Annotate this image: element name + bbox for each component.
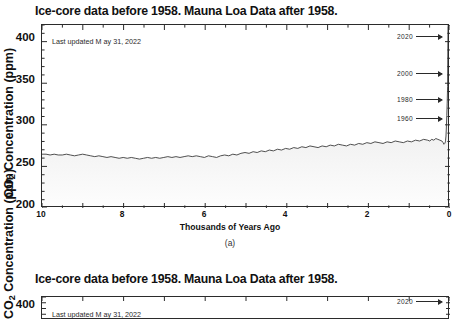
y-tick-label-300: 300 <box>2 114 35 126</box>
annotation-label-1980: 1980 <box>397 96 413 103</box>
chart-title-b: Ice-core data before 1958. Mauna Loa Dat… <box>35 272 337 286</box>
y-axis-label-b-post: Concentration (ppm) <box>2 169 16 295</box>
x-tick-label-10: 10 <box>27 209 55 219</box>
annotation-label-2020: 2020 <box>397 33 413 40</box>
x-tick-label-8: 8 <box>108 209 136 219</box>
annotation-arrow-1960: 1960 <box>397 115 442 122</box>
annotation-arrow-1980: 1980 <box>397 96 442 103</box>
annotation-arrow-shaft <box>416 118 442 119</box>
annotation-arrow-2000: 2000 <box>397 70 442 77</box>
y-tick-label-400: 400 <box>2 31 35 43</box>
x-axis-label: Thousands of Years Ago <box>0 222 460 232</box>
co2-line <box>42 27 448 159</box>
y-tick-label-350: 350 <box>2 73 35 85</box>
figure-co2-history: Ice-core data before 1958. Mauna Loa Dat… <box>0 0 460 319</box>
co2-area-fill <box>42 27 448 206</box>
last-updated-note-b: Last updated M ay 31, 2022 <box>52 310 141 319</box>
annotation-label-b-2020: 2020 <box>397 298 413 305</box>
annotation-label-1960: 1960 <box>397 115 413 122</box>
plot-inner-a <box>42 25 448 206</box>
annotation-arrow-b-2020: 2020 <box>397 298 442 305</box>
y-tick-label-250: 250 <box>2 156 35 168</box>
y-axis-label-b: CO2 Concentration (ppm) <box>2 169 17 319</box>
annotation-arrow-shaft <box>416 36 442 37</box>
plot-area-a <box>41 24 449 207</box>
last-updated-note: Last updated M ay 31, 2022 <box>52 37 141 46</box>
co2-series-plot <box>42 25 448 206</box>
annotation-arrow-shaft <box>416 73 442 74</box>
chart-title: Ice-core data before 1958. Mauna Loa Dat… <box>35 4 337 18</box>
x-tick-label-4: 4 <box>271 209 299 219</box>
chart-panel-a: Ice-core data before 1958. Mauna Loa Dat… <box>0 0 460 250</box>
annotation-label-2000: 2000 <box>397 70 413 77</box>
x-tick-label-2: 2 <box>353 209 381 219</box>
annotation-arrow-shaft <box>416 99 442 100</box>
annotation-arrow-shaft <box>416 301 442 302</box>
panel-caption-a: (a) <box>0 238 460 248</box>
y-tick-label-b-400: 400 <box>2 298 35 310</box>
x-tick-label-6: 6 <box>190 209 218 219</box>
x-tick-label-0: 0 <box>435 209 460 219</box>
annotation-arrow-2020: 2020 <box>397 33 442 40</box>
